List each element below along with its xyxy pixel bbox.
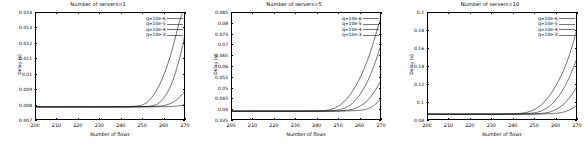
legend-line-sample [559, 33, 575, 38]
legend-label: q=10e-5 [146, 22, 166, 27]
legend: q=10e-6q=10e-5q=10e-4q=10e-3 [127, 16, 183, 38]
legend-line-sample [167, 27, 183, 32]
legend-line-sample [167, 33, 183, 38]
legend-item: q=10e-3 [323, 33, 379, 39]
legend-line-sample [167, 22, 183, 27]
chart-panel-servers-1: Number of servers=1 Delay (s) Number of … [0, 0, 196, 155]
legend-line-sample [559, 27, 575, 32]
legend: q=10e-6q=10e-5q=10e-4q=10e-3 [323, 16, 379, 38]
series-curve [231, 44, 381, 111]
legend-label: q=10e-5 [342, 22, 362, 27]
legend-label: q=10e-5 [538, 22, 558, 27]
series-curve [427, 105, 577, 114]
legend-line-sample [363, 22, 379, 27]
series-curve [231, 98, 381, 111]
legend-line-sample [167, 16, 183, 21]
legend-line-sample [559, 16, 575, 21]
series-curve [427, 86, 577, 114]
legend-line-sample [363, 33, 379, 38]
legend-label: q=10e-3 [538, 33, 558, 38]
legend-label: q=10e-3 [146, 33, 166, 38]
legend-line-sample [363, 27, 379, 32]
series-curve [35, 34, 185, 107]
series-curve [35, 91, 185, 106]
legend-label: q=10e-3 [342, 33, 362, 38]
series-curve [231, 80, 381, 111]
legend: q=10e-6q=10e-5q=10e-4q=10e-3 [519, 16, 575, 38]
series-curve [427, 58, 577, 114]
legend-item: q=10e-3 [519, 33, 575, 39]
legend-line-sample [559, 22, 575, 27]
chart-panel-servers-5: Number of servers=5 Delay (s) Number of … [196, 0, 392, 155]
figure-panel-row: Number of servers=1 Delay (s) Number of … [0, 0, 588, 155]
chart-panel-servers-10: Number of servers=10 Delay (s) Number of… [392, 0, 588, 155]
legend-item: q=10e-3 [127, 33, 183, 39]
legend-line-sample [363, 16, 379, 21]
